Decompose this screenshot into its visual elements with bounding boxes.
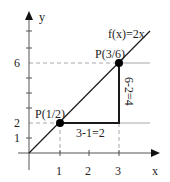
y-tick-label-2: 2 [14,116,20,130]
horizontal-leg-label: 3-1=2 [76,126,105,140]
y-axis-label: y [39,10,45,24]
vertical-leg-label: 6-2=4 [122,77,136,106]
point-p1-label: P(1/2) [35,107,65,121]
x-tick-label-1: 1 [56,164,62,178]
point-p2-label: P(3/6) [95,47,125,61]
x-axis-arrow-icon [151,149,160,157]
x-axis-label: x [152,164,158,178]
y-axis-arrow-icon [25,11,33,20]
function-label: f(x)=2x [108,27,145,41]
x-tick-label-3: 3 [115,164,121,178]
slope-triangle [60,63,120,124]
y-tick-label-1: 1 [14,131,20,145]
x-tick-label-2: 2 [85,164,91,178]
y-tick-label-6: 6 [14,56,20,70]
slope-diagram: y x 1 2 3 1 2 6 f(x)=2x P(3/6) P(1/2) 3-… [0,0,170,182]
diagram-canvas: y x 1 2 3 1 2 6 f(x)=2x P(3/6) P(1/2) 3-… [0,0,170,182]
